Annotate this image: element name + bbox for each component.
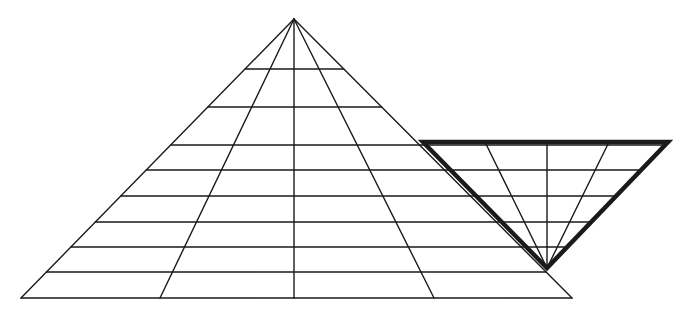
highlighted-inverted-triangle	[420, 142, 668, 268]
ray-line-2	[160, 19, 294, 298]
inverted-triangle-outline	[423, 142, 668, 268]
ray-line-1	[21, 19, 294, 298]
ray-line-4	[294, 19, 434, 298]
inverted-ray-3	[547, 142, 609, 268]
ray-line-5	[294, 19, 572, 298]
large-triangle-grid	[21, 19, 572, 298]
inverted-ray-1	[485, 142, 547, 268]
diagram-canvas	[0, 0, 695, 322]
triangle-puzzle-figure	[0, 0, 695, 322]
